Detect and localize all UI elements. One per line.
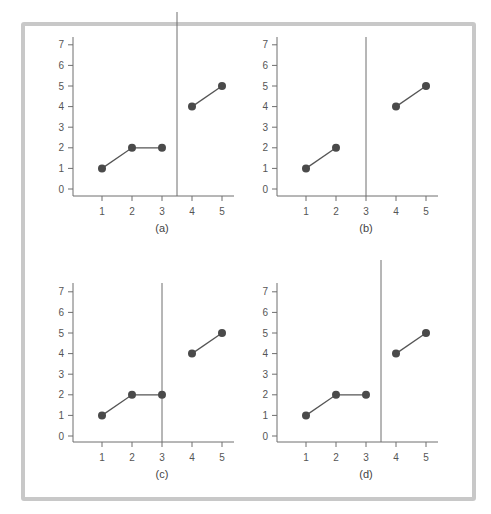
x-tick-label: 5 — [423, 452, 429, 463]
x-tick-label: 3 — [159, 206, 165, 217]
y-tick-label: 0 — [262, 431, 268, 442]
x-tick-label: 3 — [159, 452, 165, 463]
y-tick-label: 7 — [262, 39, 268, 50]
y-tick-label: 1 — [58, 410, 64, 421]
y-tick-label: 0 — [58, 184, 64, 195]
y-tick-label: 3 — [58, 122, 64, 133]
data-point — [158, 144, 166, 152]
y-tick-label: 7 — [58, 39, 64, 50]
data-point — [302, 411, 310, 419]
y-tick-label: 2 — [262, 142, 268, 153]
panel-caption: (d) — [359, 468, 372, 480]
data-point — [218, 82, 226, 90]
data-line — [396, 86, 426, 107]
y-tick-label: 1 — [58, 163, 64, 174]
y-tick-label: 4 — [262, 348, 268, 359]
x-tick-label: 1 — [99, 452, 105, 463]
data-line — [192, 333, 222, 354]
y-tick-label: 2 — [262, 389, 268, 400]
panel-b: 0123456712345(b) — [262, 37, 438, 234]
panel-caption: (c) — [156, 468, 169, 480]
x-tick-label: 2 — [333, 206, 339, 217]
y-tick-label: 6 — [262, 307, 268, 318]
panel-a: 0123456712345(a) — [58, 12, 234, 234]
x-tick-label: 3 — [363, 206, 369, 217]
data-point — [422, 82, 430, 90]
y-tick-label: 3 — [58, 369, 64, 380]
panel-c: 0123456712345(c) — [58, 283, 234, 480]
y-tick-label: 5 — [58, 81, 64, 92]
x-tick-label: 4 — [189, 452, 195, 463]
y-tick-label: 4 — [262, 101, 268, 112]
y-tick-label: 3 — [262, 369, 268, 380]
data-point — [128, 144, 136, 152]
y-tick-label: 6 — [58, 307, 64, 318]
y-tick-label: 2 — [58, 142, 64, 153]
data-point — [392, 103, 400, 111]
y-tick-label: 6 — [262, 60, 268, 71]
data-point — [332, 391, 340, 399]
data-line — [396, 333, 426, 354]
y-tick-label: 0 — [58, 431, 64, 442]
y-tick-label: 1 — [262, 410, 268, 421]
x-tick-label: 3 — [363, 452, 369, 463]
figure-panels: 0123456712345(a)0123456712345(b)01234567… — [0, 0, 491, 514]
y-tick-label: 1 — [262, 163, 268, 174]
y-tick-label: 5 — [58, 328, 64, 339]
data-point — [188, 103, 196, 111]
y-tick-label: 6 — [58, 60, 64, 71]
data-line — [192, 86, 222, 107]
x-tick-label: 4 — [189, 206, 195, 217]
panel-caption: (a) — [155, 222, 168, 234]
x-tick-label: 2 — [129, 452, 135, 463]
x-tick-label: 5 — [219, 206, 225, 217]
data-line — [306, 148, 336, 169]
data-point — [158, 391, 166, 399]
x-tick-label: 5 — [423, 206, 429, 217]
x-tick-label: 2 — [333, 452, 339, 463]
y-tick-label: 7 — [58, 286, 64, 297]
data-point — [98, 164, 106, 172]
x-tick-label: 2 — [129, 206, 135, 217]
y-tick-label: 3 — [262, 122, 268, 133]
data-point — [218, 329, 226, 337]
data-point — [302, 164, 310, 172]
x-tick-label: 1 — [99, 206, 105, 217]
data-point — [332, 144, 340, 152]
x-tick-label: 1 — [303, 206, 309, 217]
y-tick-label: 7 — [262, 286, 268, 297]
panel-caption: (b) — [359, 222, 372, 234]
x-tick-label: 1 — [303, 452, 309, 463]
x-tick-label: 4 — [393, 452, 399, 463]
x-tick-label: 4 — [393, 206, 399, 217]
y-tick-label: 2 — [58, 389, 64, 400]
data-point — [422, 329, 430, 337]
data-point — [362, 391, 370, 399]
y-tick-label: 4 — [58, 348, 64, 359]
data-point — [188, 350, 196, 358]
panel-d: 0123456712345(d) — [262, 260, 438, 480]
y-tick-label: 5 — [262, 328, 268, 339]
y-tick-label: 0 — [262, 184, 268, 195]
data-point — [128, 391, 136, 399]
data-point — [98, 411, 106, 419]
y-tick-label: 4 — [58, 101, 64, 112]
y-tick-label: 5 — [262, 81, 268, 92]
x-tick-label: 5 — [219, 452, 225, 463]
data-point — [392, 350, 400, 358]
